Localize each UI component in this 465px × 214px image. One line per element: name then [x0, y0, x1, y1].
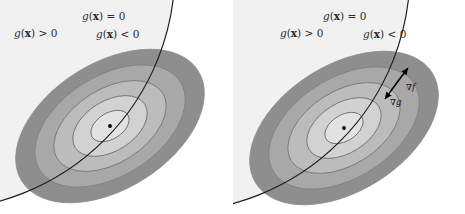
label-g-negative-right: g(x) < 0 [363, 28, 406, 40]
grad-g-label: ∇g [390, 97, 402, 107]
label-g-equals-zero-left: g(x) = 0 [82, 10, 125, 22]
label-g-negative-left: g(x) < 0 [96, 28, 139, 40]
label-g-positive-right: g(x) > 0 [280, 27, 323, 39]
optimum-dot [108, 124, 112, 128]
figure-canvas: g(x) = 0 g(x) > 0 g(x) < 0 ∇f ∇g g(x) = … [0, 0, 465, 214]
optimum-dot [342, 126, 346, 130]
label-g-positive-left: g(x) > 0 [14, 27, 57, 39]
label-g-equals-zero-right: g(x) = 0 [323, 10, 366, 22]
constraint-figure-svg: g(x) = 0 g(x) > 0 g(x) < 0 ∇f ∇g g(x) = … [0, 0, 465, 214]
